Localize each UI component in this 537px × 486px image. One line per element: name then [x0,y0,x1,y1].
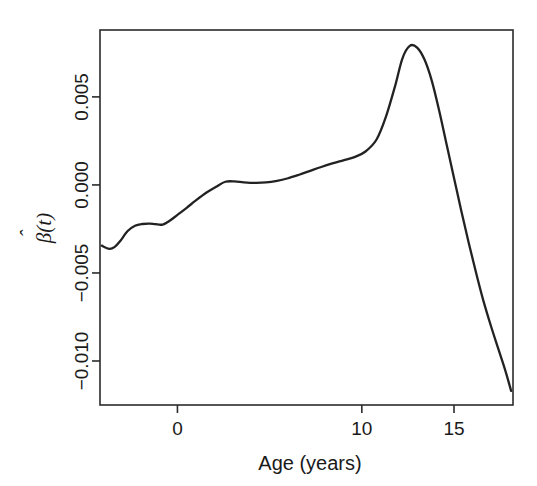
y-tick-label-0: 0.005 [72,73,93,121]
y-axis-title-arg: (t) [32,213,56,233]
plot-frame-box [100,30,513,405]
x-axis-tick-marks [177,405,454,413]
x-tick-label-2: 15 [443,418,464,439]
data-series-beta-hat [102,45,511,391]
y-axis-tick-labels: 0.005 0.000 −0.005 −0.010 [72,73,93,390]
x-axis-title: Age (years) [258,452,361,474]
plot-canvas: 0.005 0.000 −0.005 −0.010 β(t) ˆ 0 10 15… [0,0,537,486]
x-axis-tick-labels: 0 10 15 [172,418,464,439]
y-axis-title: β(t) ˆ [16,213,56,244]
y-tick-label-2: −0.005 [72,244,93,303]
x-tick-label-1: 10 [351,418,372,439]
x-tick-label-0: 0 [172,418,183,439]
y-axis-title-hat: ˆ [16,230,40,238]
y-axis-title-text: β(t) [32,213,56,244]
y-tick-label-1: 0.000 [72,161,93,209]
y-axis-tick-marks [92,97,100,361]
y-tick-label-3: −0.010 [72,332,93,391]
chart-figure: 0.005 0.000 −0.005 −0.010 β(t) ˆ 0 10 15… [0,0,537,486]
